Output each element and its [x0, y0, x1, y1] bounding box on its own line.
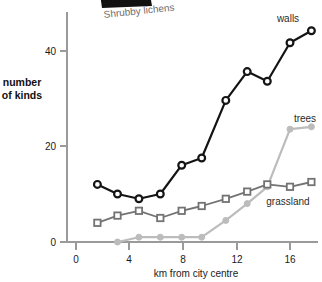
- data-point-grassland-10: [308, 179, 314, 185]
- data-point-grassland-1: [114, 212, 120, 218]
- data-point-walls-8: [264, 78, 271, 85]
- data-point-grassland-9: [287, 184, 293, 190]
- data-point-walls-4: [178, 162, 185, 169]
- x-tick-label-4: 4: [126, 254, 132, 265]
- data-point-trees-8: [287, 126, 293, 132]
- data-point-trees-0: [115, 239, 121, 245]
- data-point-walls-2: [136, 195, 143, 202]
- data-point-trees-5: [223, 217, 229, 223]
- series-label-grassland: grassland: [266, 196, 309, 207]
- data-point-trees-1: [136, 234, 142, 240]
- series-line-trees: [118, 127, 312, 242]
- data-point-grassland-6: [223, 196, 229, 202]
- x-tick-label-16: 16: [284, 254, 296, 265]
- x-tick-label-8: 8: [180, 254, 186, 265]
- x-tick-label-0: 0: [73, 254, 79, 265]
- data-point-walls-6: [222, 97, 229, 104]
- series-label-trees: trees: [294, 113, 316, 124]
- data-point-walls-1: [114, 191, 121, 198]
- x-tick-label-12: 12: [231, 254, 243, 265]
- data-point-trees-4: [199, 234, 205, 240]
- data-point-walls-0: [94, 181, 101, 188]
- data-point-walls-5: [198, 155, 205, 162]
- data-point-grassland-2: [136, 208, 142, 214]
- data-point-grassland-5: [199, 203, 205, 209]
- y-axis-title-line1: number: [3, 76, 42, 88]
- data-point-grassland-0: [94, 220, 100, 226]
- data-point-grassland-4: [179, 208, 185, 214]
- data-point-walls-9: [287, 39, 294, 46]
- data-point-grassland-3: [157, 215, 163, 221]
- y-axis-title-line2: of kinds: [2, 89, 42, 101]
- data-point-walls-3: [157, 191, 164, 198]
- y-tick-label-20: 20: [45, 141, 57, 152]
- data-point-grassland-8: [264, 181, 270, 187]
- x-axis-title: km from city centre: [154, 268, 239, 279]
- data-point-trees-6: [244, 201, 250, 207]
- y-tick-label-40: 40: [45, 46, 57, 57]
- data-point-trees-9: [308, 124, 314, 130]
- data-point-walls-7: [244, 68, 251, 75]
- series-walls: [94, 27, 315, 202]
- series-trees: [115, 124, 315, 245]
- data-point-trees-2: [157, 234, 163, 240]
- data-point-walls-10: [308, 27, 315, 34]
- data-point-grassland-7: [244, 188, 250, 194]
- series-label-walls: walls: [276, 13, 299, 24]
- data-point-trees-3: [179, 234, 185, 240]
- lichen-species-line-chart: Shrubby lichens 40 20 0 0 4 8 12 16 km f…: [0, 0, 322, 282]
- y-tick-label-0: 0: [50, 237, 56, 248]
- axes: [60, 12, 318, 250]
- series-line-walls: [97, 31, 311, 199]
- chart-container: Shrubby lichens 40 20 0 0 4 8 12 16 km f…: [0, 0, 322, 282]
